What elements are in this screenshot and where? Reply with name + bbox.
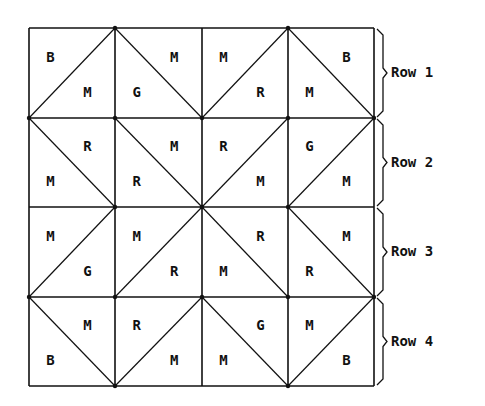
vertex-dot — [113, 295, 117, 299]
cell-letter-top: M — [305, 317, 313, 333]
cell-letter-bottom: G — [83, 263, 91, 279]
cell-diagonal — [288, 207, 374, 297]
cell-letters: BMMGMRBMRMMRRMGMMGMRRMMRMBRMGMMB — [46, 49, 350, 368]
cell-diagonal — [288, 118, 374, 207]
cell-diagonal — [115, 118, 202, 207]
vertex-dot — [372, 295, 376, 299]
vertex-dot — [200, 116, 204, 120]
vertex-dot — [113, 26, 117, 30]
cell-diagonal — [29, 28, 115, 118]
row-label-1: Row 1 — [391, 64, 433, 80]
row-braces — [377, 29, 387, 385]
cell-letter-bottom: M — [256, 173, 264, 189]
quilt-diagram: BMMGMRBMRMMRRMGMMGMRRMMRMBRMGMMB Row 1Ro… — [0, 0, 485, 406]
cell-letter-top: M — [46, 228, 54, 244]
cell-letter-bottom: M — [305, 84, 313, 100]
cell-letter-top: G — [305, 138, 313, 154]
cell-diagonal — [288, 297, 374, 386]
cell-letter-top: B — [46, 49, 54, 65]
row-label-4: Row 4 — [391, 333, 433, 349]
cell-letter-top: R — [219, 138, 228, 154]
cell-letter-top: B — [342, 49, 350, 65]
cell-diagonal — [202, 207, 288, 297]
cell-diagonal — [202, 118, 288, 207]
vertex-dot — [113, 116, 117, 120]
row-brace-2 — [377, 119, 387, 206]
cell-letter-bottom: M — [46, 173, 54, 189]
vertex-dot — [113, 205, 117, 209]
cell-letter-top: M — [83, 317, 91, 333]
cell-letter-top: R — [133, 317, 142, 333]
cell-diagonal — [288, 28, 374, 118]
vertex-dot — [286, 384, 290, 388]
cell-diagonal — [202, 28, 288, 118]
cell-letter-bottom: R — [133, 173, 142, 189]
cell-diagonal — [29, 297, 115, 386]
cell-letter-bottom: B — [46, 352, 54, 368]
vertex-dot — [286, 116, 290, 120]
row-brace-3 — [377, 208, 387, 296]
cell-diagonal — [202, 297, 288, 386]
cell-letter-top: M — [170, 138, 178, 154]
vertex-dot — [200, 295, 204, 299]
cell-letter-bottom: M — [219, 352, 227, 368]
vertex-dot — [200, 205, 204, 209]
vertex-dot — [372, 116, 376, 120]
cell-diagonal — [115, 207, 202, 297]
cell-letter-top: G — [256, 317, 264, 333]
cell-letter-top: R — [83, 138, 92, 154]
cell-letter-bottom: M — [170, 352, 178, 368]
vertex-dot — [286, 26, 290, 30]
cell-letter-bottom: G — [133, 84, 141, 100]
cell-letter-bottom: R — [170, 263, 179, 279]
vertex-dot — [27, 295, 31, 299]
row-labels: Row 1Row 2Row 3Row 4 — [391, 64, 433, 349]
cell-letter-top: M — [342, 228, 350, 244]
cell-letter-top: M — [219, 49, 227, 65]
row-brace-4 — [377, 298, 387, 385]
vertex-dot — [286, 295, 290, 299]
vertex-dot — [113, 384, 117, 388]
cell-diagonal — [29, 207, 115, 297]
vertex-dot — [286, 205, 290, 209]
vertex-dot — [27, 116, 31, 120]
cell-letter-bottom: R — [256, 84, 265, 100]
cell-diagonal — [115, 297, 202, 386]
cell-letter-bottom: M — [219, 263, 227, 279]
row-label-2: Row 2 — [391, 154, 433, 170]
cell-diagonal — [29, 118, 115, 207]
row-brace-1 — [377, 29, 387, 117]
cell-letter-bottom: R — [305, 263, 314, 279]
cell-letter-bottom: B — [342, 352, 350, 368]
cell-letter-bottom: M — [83, 84, 91, 100]
row-label-3: Row 3 — [391, 243, 433, 259]
cell-diagonal — [115, 28, 202, 118]
cell-letter-top: M — [170, 49, 178, 65]
cell-letter-top: M — [133, 228, 141, 244]
cell-letter-bottom: M — [342, 173, 350, 189]
cell-letter-top: R — [256, 228, 265, 244]
